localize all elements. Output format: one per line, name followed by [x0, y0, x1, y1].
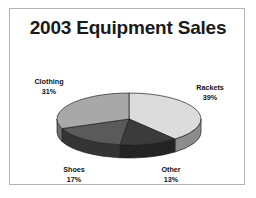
pie-top-face — [57, 93, 201, 145]
pie-label-rackets: Rackets 39% — [184, 83, 236, 102]
pie-label-shoes: Shoes 17% — [48, 165, 100, 184]
pie-label-other-percent: 13% — [145, 175, 197, 185]
pie-label-rackets-name: Rackets — [196, 83, 224, 92]
pie-label-other: Other 13% — [145, 165, 197, 184]
pie-label-shoes-percent: 17% — [48, 175, 100, 185]
pie-label-clothing: Clothing 31% — [23, 77, 75, 96]
chart-card: 2003 Equipment Sales Clothing 31% Racket… — [9, 8, 245, 185]
pie-label-rackets-percent: 39% — [184, 93, 236, 103]
pie-label-shoes-name: Shoes — [63, 165, 85, 174]
pie-label-other-name: Other — [161, 165, 180, 174]
pie-label-clothing-name: Clothing — [34, 77, 63, 86]
pie-label-clothing-percent: 31% — [23, 87, 75, 97]
